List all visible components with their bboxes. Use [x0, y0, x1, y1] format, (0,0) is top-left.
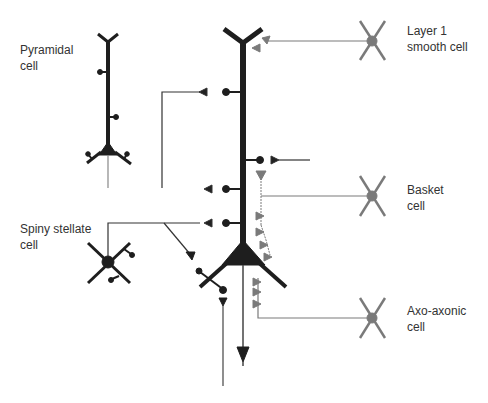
- layer1-smooth-cell: [252, 21, 385, 60]
- small-pyramidal-cell: [86, 34, 131, 188]
- axo-axonic-cell: [253, 278, 385, 338]
- spiny-stellate-cell-label: Spiny stellate cell: [20, 221, 91, 253]
- recurrent-axon: [162, 88, 207, 188]
- basket-cell: [256, 171, 385, 261]
- axo-axonic-cell-label: Axo-axonic cell: [407, 303, 466, 335]
- main-pyramidal-cell: [200, 29, 286, 366]
- spiny-stellate-cell: [88, 223, 200, 283]
- pyramidal-cell-label: Pyramidal cell: [20, 42, 73, 74]
- layer1-smooth-cell-label: Layer 1 smooth cell: [407, 23, 468, 55]
- basket-cell-label: Basket cell: [407, 182, 444, 214]
